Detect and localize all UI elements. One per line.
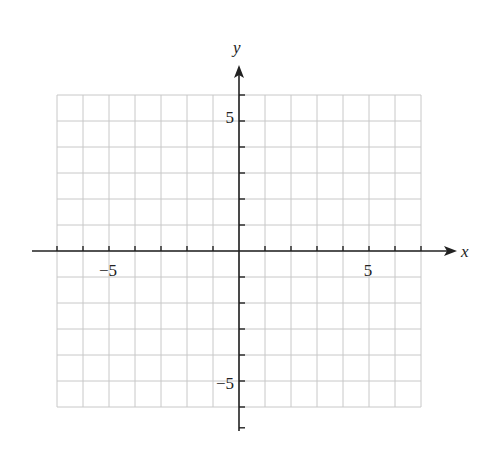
y-tick-label-neg5: −5: [216, 374, 234, 393]
x-tick-label-neg5: −5: [99, 261, 117, 280]
y-tick-label-pos5: 5: [226, 108, 235, 127]
axes: [32, 65, 457, 431]
y-axis-label: y: [231, 38, 241, 57]
x-tick-label-pos5: 5: [364, 261, 373, 280]
x-axis-label: x: [460, 242, 469, 261]
coordinate-plane: x y −5 5 5 −5: [0, 0, 495, 452]
